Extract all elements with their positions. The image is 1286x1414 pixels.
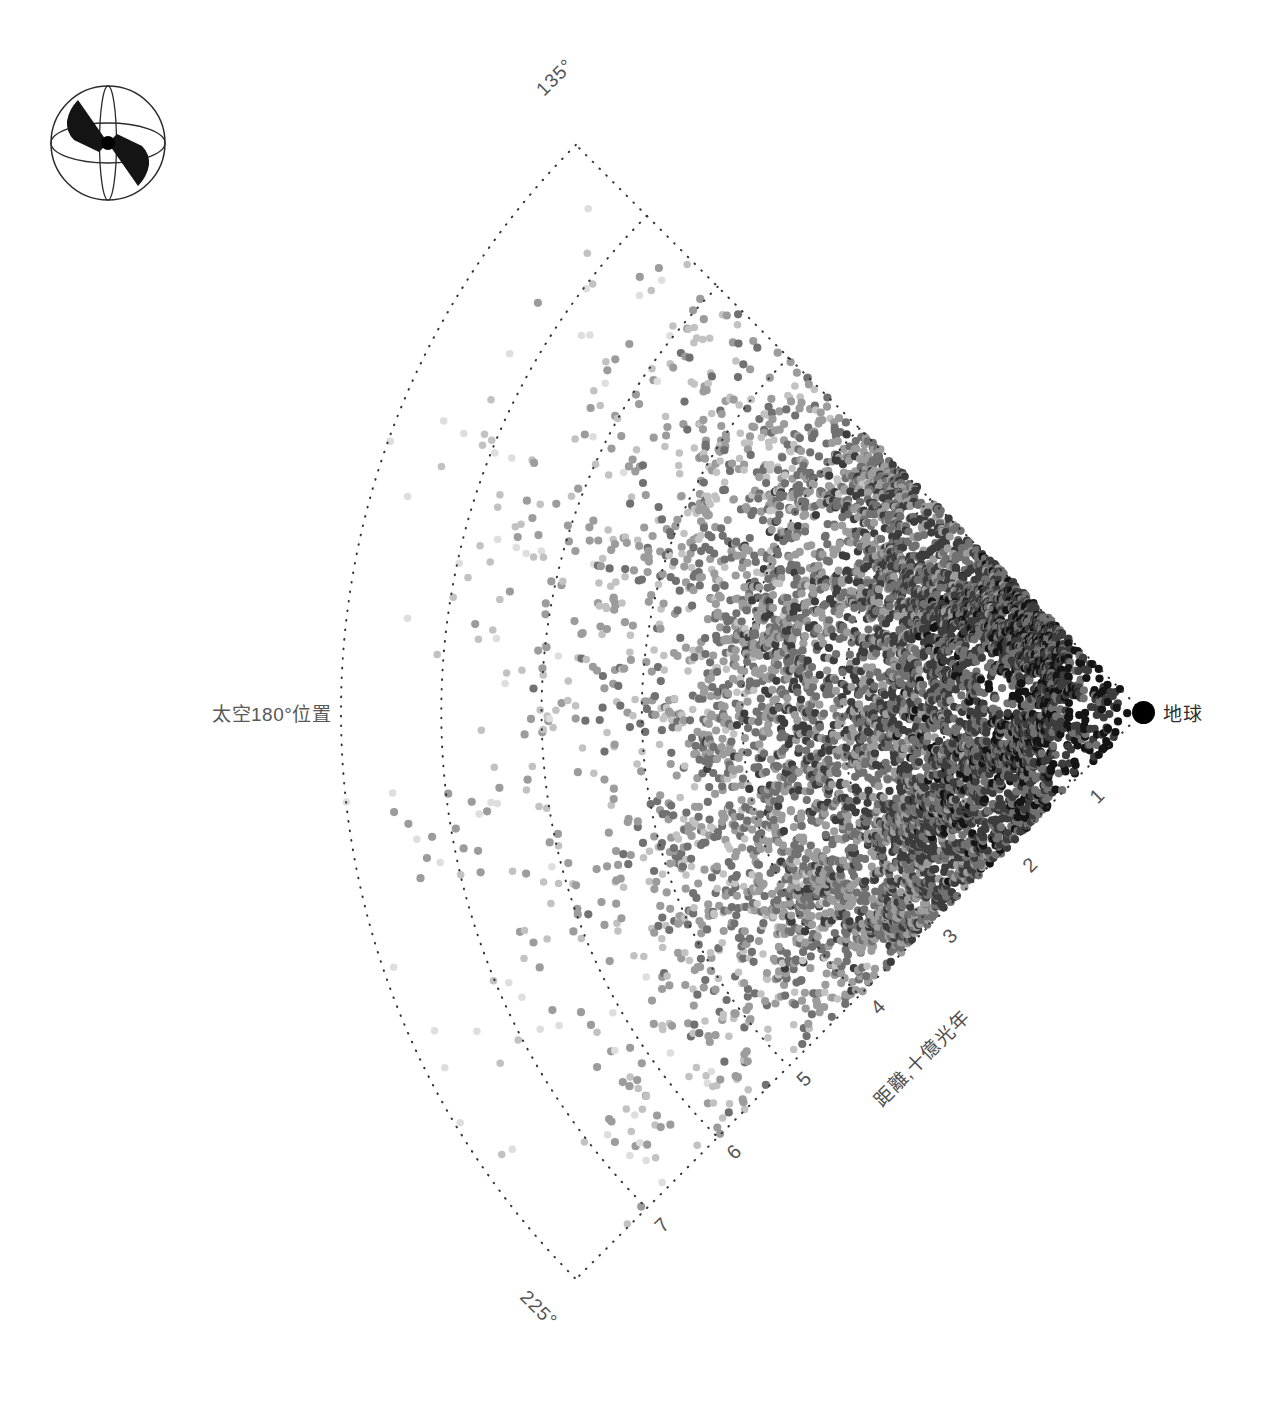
galaxy-point-cloud xyxy=(343,205,1132,1228)
survey-sphere-icon xyxy=(47,82,169,204)
distance-arc-7 xyxy=(441,216,647,1208)
figure-canvas: 地球 太空180°位置 距離,十億光年 1234567 135°225° xyxy=(0,0,1286,1414)
wedge-scatter-plot xyxy=(0,0,1286,1414)
sphere-center-dot-icon xyxy=(101,136,115,150)
space-180-label: 太空180°位置 xyxy=(212,699,331,726)
earth-marker-dot xyxy=(1132,701,1155,724)
earth-label: 地球 xyxy=(1163,699,1202,726)
